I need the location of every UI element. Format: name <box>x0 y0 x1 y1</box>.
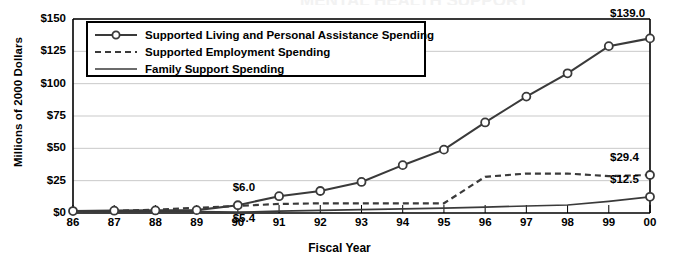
legend-key-solid-icon <box>94 62 138 76</box>
annotation-294: $29.4 <box>610 151 639 163</box>
legend-key-dashed-icon <box>94 45 138 59</box>
annotation-125: $12.5 <box>610 173 639 185</box>
x-axis-tick-92: 92 <box>300 216 340 228</box>
x-axis-tick-95: 95 <box>424 216 464 228</box>
annotation-1390: $139.0 <box>610 7 645 19</box>
x-axis-tick-98: 98 <box>548 216 588 228</box>
legend-item-family-support: Family Support Spending <box>94 61 418 77</box>
x-axis-tick-96: 96 <box>465 216 505 228</box>
x-axis-tick-87: 87 <box>94 216 134 228</box>
chart-legend: Supported Living and Personal Assistance… <box>86 21 426 77</box>
legend-key-line-marker-icon <box>94 28 138 42</box>
x-axis-title: Fiscal Year <box>0 241 679 255</box>
chart-container: MENTAL HEALTH SUPPORT Millions of 2000 D… <box>0 0 679 261</box>
x-axis-tick-97: 97 <box>506 216 546 228</box>
x-axis-tick-99: 99 <box>589 216 629 228</box>
x-axis-tick-00: 00 <box>630 216 670 228</box>
legend-item-supported-employment: Supported Employment Spending <box>94 44 418 60</box>
x-axis-tick-91: 91 <box>259 216 299 228</box>
legend-label-family-support: Family Support Spending <box>145 63 284 75</box>
annotation-60: $6.0 <box>233 181 255 193</box>
legend-label-supported-employment: Supported Employment Spending <box>145 46 330 58</box>
x-axis-tick-89: 89 <box>177 216 217 228</box>
x-axis-tick-86: 86 <box>53 216 93 228</box>
x-axis-tick-93: 93 <box>342 216 382 228</box>
x-axis-tick-94: 94 <box>383 216 423 228</box>
x-axis-tick-88: 88 <box>135 216 175 228</box>
legend-label-supported-living: Supported Living and Personal Assistance… <box>145 29 434 41</box>
annotation-54: $5.4 <box>233 212 255 224</box>
legend-item-supported-living: Supported Living and Personal Assistance… <box>94 27 418 43</box>
